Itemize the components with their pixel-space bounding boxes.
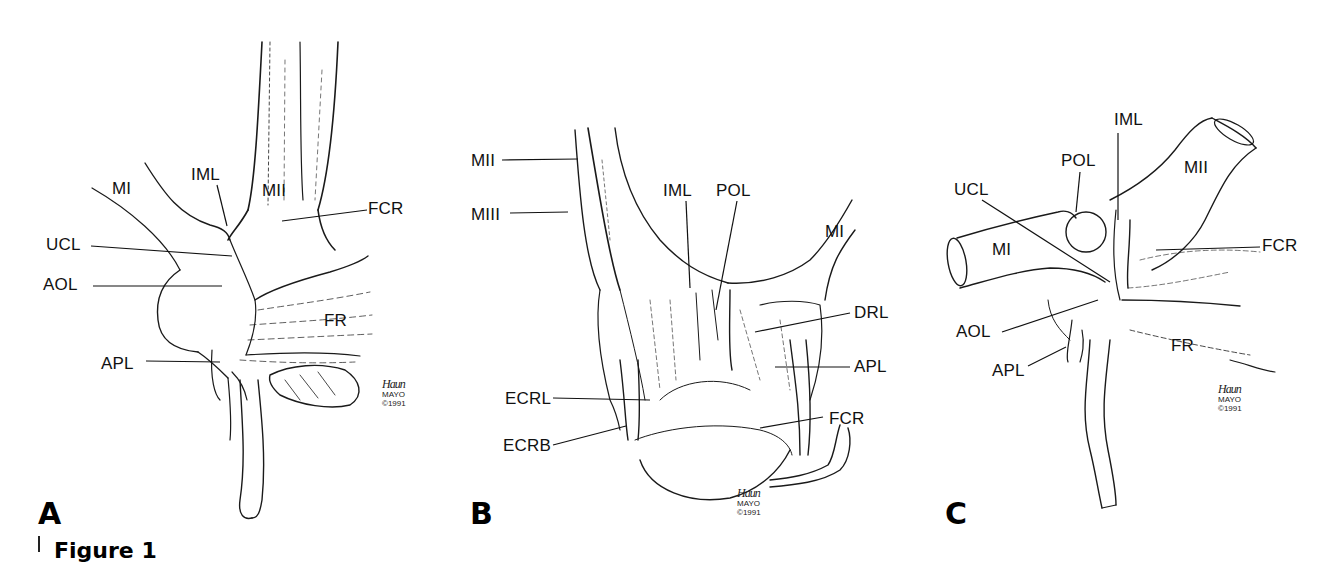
panel-b-leader-lines	[460, 0, 930, 552]
artist-signature: Haun MAYO ©1991	[1218, 383, 1242, 414]
panel-a: MI IML MII FCR UCL AOL FR APL Haun MAYO …	[0, 0, 460, 552]
panel-c-leader-lines	[930, 0, 1340, 552]
panel-letter-b: B	[470, 499, 493, 529]
caption-rule	[38, 536, 40, 552]
panel-b: MII MIII IML POL MI DRL APL ECRL FCR ECR…	[460, 0, 930, 552]
figure-caption-label: Figure 1	[54, 540, 157, 562]
artist-signature: Haun MAYO ©1991	[737, 487, 761, 518]
panel-c: IML POL MII UCL MI FCR AOL FR APL Haun M…	[930, 0, 1340, 552]
panel-a-leader-lines	[0, 0, 460, 552]
artist-signature: Haun MAYO ©1991	[382, 378, 406, 409]
panel-letter-a: A	[38, 499, 61, 529]
panel-letter-c: C	[945, 499, 967, 529]
